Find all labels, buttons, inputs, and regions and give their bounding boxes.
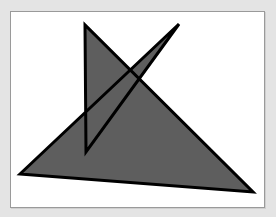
- figure-svg: [0, 0, 276, 217]
- gray-polygon-shape: [20, 24, 253, 192]
